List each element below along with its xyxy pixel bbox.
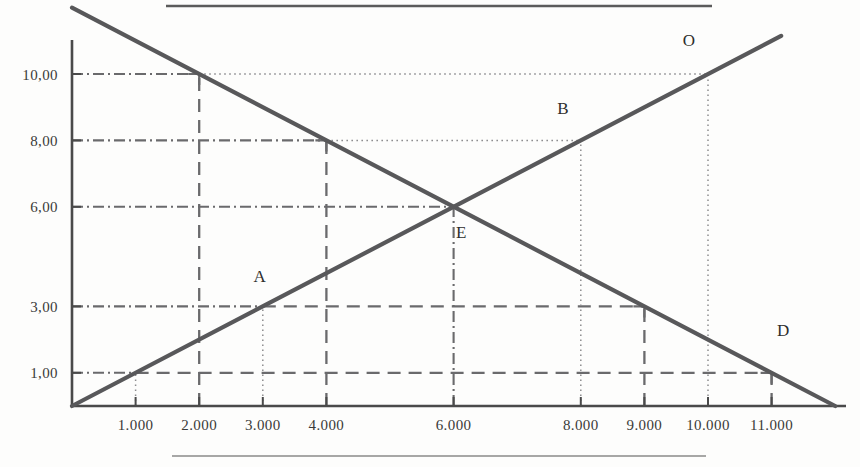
x-axis-tick-label: 6.000 [436,417,472,433]
y-axis-tick-label: 1,00 [30,365,58,381]
point-labels: AEBOD [253,31,789,341]
y-axis-tick-label: 6,00 [30,199,58,215]
corner-mark-11 [761,373,772,384]
point-label-B: B [557,99,568,118]
supply-demand-chart: 10,008,006,003,001,00 1.0002.0003.0004.0… [0,0,860,467]
corner-mark-4 [315,140,326,151]
corner-mark-2 [188,74,199,85]
y-axis-tick-label: 10,00 [22,67,58,83]
x-axis-tick-label: 9.000 [627,417,663,433]
y-axis-tick-label: 8,00 [30,133,58,149]
x-axis-tick-label: 1.000 [118,417,154,433]
x-axis-tick-label: 11.000 [750,417,793,433]
point-label-O: O [683,31,695,50]
figure-page: 10,008,006,003,001,00 1.0002.0003.0004.0… [0,0,860,467]
series-line-supply [72,36,781,406]
x-axis-tick-label: 4.000 [309,417,345,433]
x-axis-tick-label: 3.000 [245,417,281,433]
point-label-E: E [456,223,466,242]
y-tick-labels: 10,008,006,003,001,00 [22,67,58,382]
corner-mark-9 [633,306,644,317]
point-label-A: A [253,267,266,286]
x-axis-tick-label: 10.000 [686,417,730,433]
tick-marks-layer [72,74,772,406]
x-axis-tick-label: 8.000 [563,417,599,433]
point-label-D: D [777,321,789,340]
y-axis-tick-label: 3,00 [30,299,58,315]
corner-marks-layer [188,74,771,384]
guide-lines-layer [72,74,772,406]
x-tick-labels: 1.0002.0003.0004.0006.0008.0009.00010.00… [118,417,793,433]
x-axis-tick-label: 2.000 [181,417,217,433]
